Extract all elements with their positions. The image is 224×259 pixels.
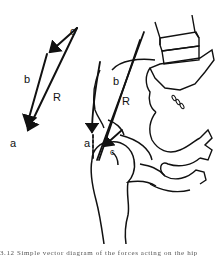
label-anatomy-c: c — [110, 148, 115, 157]
vector-r — [28, 28, 77, 130]
label-anatomy-b: b — [113, 76, 119, 87]
figure-caption: 3.12 Simple vector diagram of the forces… — [0, 249, 224, 257]
label-vector-c: c — [70, 26, 76, 37]
vector-b — [27, 54, 47, 125]
label-vector-r: R — [53, 92, 61, 103]
label-anatomy-r: R — [122, 96, 130, 107]
figure-drawing — [0, 0, 224, 259]
vector-triangle — [27, 28, 77, 130]
label-vector-a: a — [10, 138, 16, 149]
sacral-foramina — [171, 95, 185, 110]
label-anatomy-a: a — [84, 138, 90, 149]
label-vector-b: b — [24, 74, 30, 85]
lumbar-spine — [150, 15, 214, 90]
